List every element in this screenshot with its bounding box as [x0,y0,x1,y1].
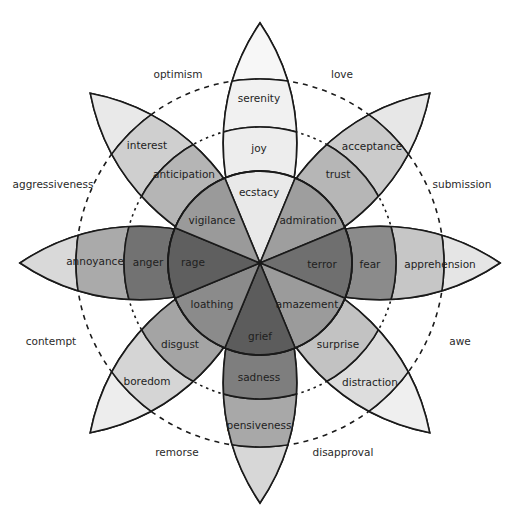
emotion-label-vigilance: vigilance [189,214,236,226]
emotion-label-serenity: serenity [238,92,280,104]
emotion-label-ecstacy: ecstacy [239,186,279,198]
emotion-label-annoyance: annoyance [66,255,124,267]
emotion-label-joy: joy [250,142,267,154]
emotion-label-anger: anger [133,256,164,268]
plutchik-wheel: ecstacyjoyserenityadmirationtrustaccepta… [0,0,514,520]
emotion-label-apprehension: apprehension [404,258,476,270]
emotion-label-terror: terror [307,258,337,270]
emotion-label-distraction: distraction [342,376,398,388]
emotion-label-trust: trust [326,168,351,180]
emotion-label-surprise: surprise [317,338,359,350]
emotion-label-fear: fear [360,258,382,270]
emotion-label-disgust: disgust [161,338,199,350]
dyad-label-submission: submission [433,178,492,190]
emotion-label-pensiveness: pensiveness [227,419,292,431]
emotion-label-rage: rage [181,256,205,268]
emotion-label-amazement: amazement [276,298,339,310]
emotion-label-anticipation: anticipation [153,168,215,180]
emotion-label-boredom: boredom [124,375,171,387]
dyad-label-optimism: optimism [154,68,203,80]
emotion-label-grief: grief [248,330,272,342]
dyad-label-remorse: remorse [155,446,198,458]
emotion-label-acceptance: acceptance [342,140,403,152]
dyad-label-disapproval: disapproval [313,446,374,458]
emotion-label-admiration: admiration [279,214,336,226]
emotion-label-interest: interest [127,139,167,151]
emotion-label-sadness: sadness [238,371,281,383]
dyad-label-love: love [331,68,353,80]
dyad-label-awe: awe [449,335,470,347]
dyad-label-contempt: contempt [26,335,76,347]
emotion-label-loathing: loathing [191,298,234,310]
dyad-label-aggressiveness: aggressiveness [13,178,94,190]
